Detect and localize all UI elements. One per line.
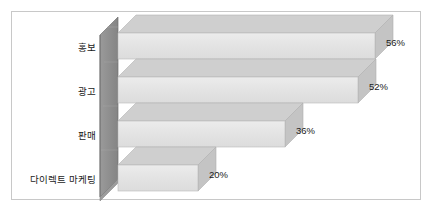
bar-front-face bbox=[118, 165, 198, 191]
category-axis-wall bbox=[100, 17, 118, 201]
bar-top-face bbox=[118, 103, 303, 121]
category-label-3: 다이렉트 마케팅 bbox=[30, 175, 96, 185]
value-label-3: 20% bbox=[209, 170, 228, 180]
category-label-2: 판매 bbox=[78, 131, 96, 141]
bar-front-face bbox=[118, 77, 358, 103]
value-label-2: 36% bbox=[296, 126, 315, 136]
category-label-1: 광고 bbox=[78, 87, 96, 97]
category-label-0: 홍보 bbox=[78, 43, 96, 53]
bar-item[interactable] bbox=[118, 103, 303, 147]
value-label-1: 52% bbox=[369, 82, 388, 92]
bar-front-face bbox=[118, 121, 285, 147]
bar-front-face bbox=[118, 33, 375, 59]
bar-item[interactable] bbox=[118, 59, 376, 103]
value-label-0: 56% bbox=[386, 38, 405, 48]
bar-item[interactable] bbox=[118, 147, 216, 191]
bar-top-face bbox=[118, 15, 393, 33]
chart-container: 홍보 광고 판매 다이렉트 마케팅 56% 52% 36% 20% bbox=[0, 0, 433, 215]
axis-wall-face bbox=[100, 17, 118, 197]
bar-top-face bbox=[118, 59, 376, 77]
bar-item[interactable] bbox=[118, 15, 393, 59]
